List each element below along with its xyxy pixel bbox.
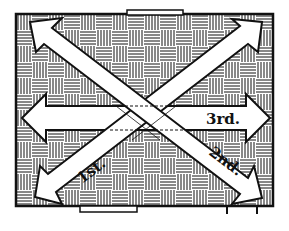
floor-plan-diagram: 1st. 2nd. 3rd. [0,0,289,231]
bottom-door [80,206,137,212]
label-third: 3rd. [206,110,240,128]
top-window [127,10,183,15]
